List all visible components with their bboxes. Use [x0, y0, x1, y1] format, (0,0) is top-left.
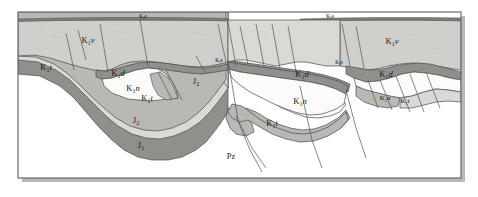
label-k1t-right: K1t: [401, 97, 410, 106]
unit-k1v-right: [340, 20, 461, 70]
label-k1t-left: K1t: [141, 93, 153, 104]
unit-j2-center-right: [228, 20, 340, 66]
label-k1t-center: K1t: [266, 118, 278, 129]
label-pz: Pz: [227, 151, 236, 161]
label-k1t-far-left: K1t: [40, 62, 52, 73]
cross-section-diagram: K1v K1v K1t K1d K1n K1t J2 J2: [0, 0, 478, 197]
geological-cross-section-figure: K1v K1v K1t K1d K1n K1t J2 J2: [0, 0, 478, 197]
